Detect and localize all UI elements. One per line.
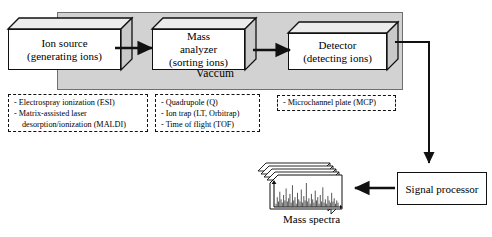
detector-line1: Detector [319, 39, 357, 52]
detector-face: Detector (detecting ions) [288, 33, 387, 70]
stage-box-detector[interactable]: Detector (detecting ions) [288, 22, 398, 70]
stage-box-ion-source[interactable]: Ion source (generating ions) [8, 18, 132, 70]
signal-processor-box[interactable]: Signal processor [397, 172, 487, 205]
annotation-line: - Matrix-assisted laser [14, 109, 142, 120]
mass-analyzer-line1: Mass [187, 30, 210, 43]
annotation-line: - Electrospray ionization (ESI) [14, 98, 142, 109]
annotation-ion-source-methods: - Electrospray ionization (ESI) - Matrix… [8, 94, 148, 132]
annotation-line: - Microchannel plate (MCP) [283, 98, 376, 109]
mass-spectra-stack[interactable] [258, 163, 350, 213]
ion-source-line2: (generating ions) [27, 50, 102, 63]
mass-analyzer-face: Mass analyzer (sorting ions) [152, 29, 245, 70]
signal-processor-label: Signal processor [405, 183, 478, 195]
annotation-mass-analyzer-types: - Quadrupole (Q) - Ion trap (LT, Orbitra… [155, 94, 260, 132]
annotation-line: desorption/ionization (MALDI) [14, 120, 142, 131]
mass-analyzer-line3: (sorting ions) [169, 56, 228, 69]
stage-box-mass-analyzer[interactable]: Mass analyzer (sorting ions) [152, 18, 256, 70]
annotation-detector-types: - Microchannel plate (MCP) [277, 95, 396, 111]
annotation-line: - Ion trap (LT, Orbitrap) [161, 109, 254, 120]
annotation-line: - Time of flight (TOF) [161, 120, 254, 131]
annotation-line: - Quadrupole (Q) [161, 98, 254, 109]
ion-source-line1: Ion source [41, 37, 87, 50]
detector-line2: (detecting ions) [303, 52, 372, 65]
diagram-canvas: Vaccum Ion source (generating ions) Mass… [0, 0, 492, 237]
mass-spectra-sheets [258, 163, 350, 213]
mass-spectra-caption: Mass spectra [283, 213, 340, 225]
mass-analyzer-line2: analyzer [180, 43, 217, 56]
ion-source-face: Ion source (generating ions) [8, 29, 121, 70]
